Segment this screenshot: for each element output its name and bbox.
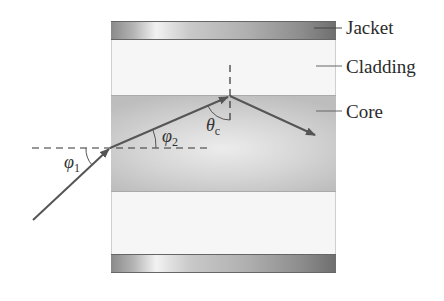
jacket-label: Jacket xyxy=(346,18,393,37)
theta-c-symbol: θc xyxy=(206,116,220,137)
cladding-label: Cladding xyxy=(346,57,416,76)
phi1-symbol: φ1 xyxy=(64,153,80,174)
core-label: Core xyxy=(346,102,383,121)
phi2-arc xyxy=(153,130,156,148)
phi2-symbol: φ2 xyxy=(162,127,178,148)
ray-diagram xyxy=(0,0,444,301)
phi1-arc xyxy=(86,148,92,165)
reflected-ray xyxy=(230,96,315,135)
